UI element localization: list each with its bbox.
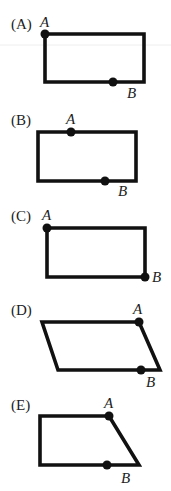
point-b-dot [141,273,150,282]
option-c-label: (C) [11,208,31,225]
option-e-trapezoid [40,416,139,465]
point-a-label: A [39,14,50,30]
option-a-rectangle [45,34,144,82]
point-b-label: B [118,183,127,199]
point-a-dot [41,30,50,39]
point-b-label: B [121,470,130,486]
option-a-label: (A) [11,16,32,33]
point-b-label: B [146,374,155,390]
option-b-label: (B) [11,112,31,129]
option-d[interactable]: (D) A B [11,301,160,390]
point-a-dot [135,318,144,327]
point-a-label: A [41,207,52,223]
point-b-dot [103,461,112,470]
point-a-label: A [65,111,76,127]
point-b-dot [137,366,146,375]
option-a[interactable]: (A) A B [11,14,144,101]
option-e-label: (E) [11,397,30,414]
point-b-dot [101,177,110,186]
point-a-label: A [132,301,143,317]
answer-choices-diagram: (A) A B (B) A B (C) A B (D) A B (E) [0,0,171,491]
option-b-rectangle [38,132,136,181]
point-a-dot [43,224,52,233]
point-a-dot [105,412,114,421]
option-b[interactable]: (B) A B [11,111,136,199]
option-d-label: (D) [11,302,32,319]
point-a-label: A [103,395,114,411]
option-d-parallelogram [42,322,160,370]
point-b-label: B [152,269,161,285]
option-e[interactable]: (E) A B [11,395,139,486]
point-a-dot [67,128,76,137]
option-c-rectangle [47,228,145,277]
option-c[interactable]: (C) A B [11,207,161,285]
point-b-dot [109,78,118,87]
point-b-label: B [127,85,136,101]
